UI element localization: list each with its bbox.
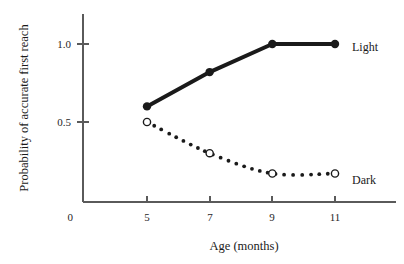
series-dot-dark-21 <box>309 173 313 177</box>
data-point-dark-9 <box>269 170 276 177</box>
data-point-light-7 <box>205 68 213 76</box>
data-point-dark-11 <box>331 170 338 177</box>
series-dot-dark-7 <box>196 146 200 150</box>
data-point-dark-7 <box>206 150 213 157</box>
data-point-light-9 <box>268 40 276 48</box>
x-tick-label-7: 7 <box>207 211 213 223</box>
x-axis-title: Age (months) <box>209 239 278 253</box>
series-dot-dark-18 <box>282 173 286 177</box>
x-tick-label-5: 5 <box>144 211 150 223</box>
y-tick-label-1.0: 1.0 <box>57 38 71 50</box>
series-light <box>143 40 339 111</box>
series-dot-dark-5 <box>182 139 186 143</box>
series-dot-dark-23 <box>326 172 330 176</box>
series-line-light <box>147 44 335 106</box>
series-dot-dark-2 <box>159 128 163 132</box>
series-dot-dark-3 <box>167 132 171 136</box>
data-point-light-11 <box>331 40 339 48</box>
series-dot-dark-19 <box>291 173 295 177</box>
series-dot-dark-6 <box>189 143 193 147</box>
series-dot-dark-11 <box>227 159 231 163</box>
x-tick-label-11: 11 <box>330 211 341 223</box>
series-dot-dark-4 <box>174 135 178 139</box>
series-dot-dark-22 <box>317 172 321 176</box>
series-dot-dark-10 <box>219 156 223 160</box>
chart-figure: 1.0 0.5 0 5 7 9 11 Light Dark Age (month… <box>0 0 404 264</box>
data-point-dark-5 <box>143 118 150 125</box>
y-axis-title: Probability of accurate first reach <box>17 24 31 192</box>
chart-plot-area: 1.0 0.5 0 5 7 9 11 Light Dark Age (month… <box>0 0 404 264</box>
series-dot-dark-15 <box>258 169 262 173</box>
series-label-dark: Dark <box>352 173 376 187</box>
x-tick-label-9: 9 <box>269 211 275 223</box>
series-label-light: Light <box>352 40 379 54</box>
series-dot-dark-14 <box>250 167 254 171</box>
series-dot-dark-20 <box>300 173 304 177</box>
y-tick-label-0: 0 <box>68 211 74 223</box>
data-point-light-5 <box>143 102 151 110</box>
series-dark <box>143 118 338 177</box>
series-dot-dark-12 <box>234 162 238 166</box>
series-dot-dark-1 <box>152 124 156 128</box>
series-dot-dark-13 <box>242 164 246 168</box>
y-tick-label-0.5: 0.5 <box>57 116 71 128</box>
